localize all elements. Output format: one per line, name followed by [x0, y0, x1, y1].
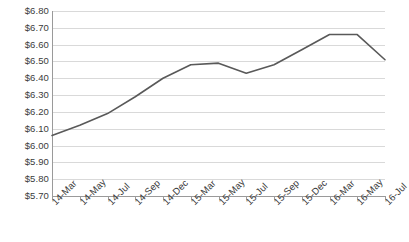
series-line-price: [52, 35, 385, 136]
